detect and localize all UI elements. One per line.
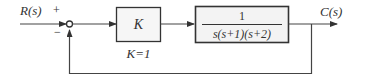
output-label: C(s) — [320, 4, 342, 19]
plant-numerator: 1 — [239, 9, 245, 23]
gain-value-annotation: K=1 — [126, 46, 151, 61]
controller-gain-label: K — [133, 17, 144, 32]
summing-junction — [67, 21, 73, 27]
input-label: R(s) — [19, 3, 42, 18]
plus-sign: + — [53, 3, 60, 17]
plant-denominator: s(s+1)(s+2) — [213, 27, 271, 41]
minus-sign: − — [54, 25, 61, 39]
block-diagram: R(s) + − K K=1 1 s(s+1)(s+2) C(s) — [0, 0, 365, 79]
